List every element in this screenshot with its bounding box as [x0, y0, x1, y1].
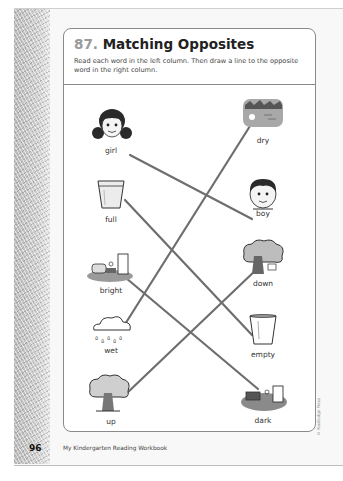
- svg-text:٥: ٥: [95, 334, 98, 341]
- line-girl-boy[interactable]: [130, 155, 252, 219]
- boy-face-icon[interactable]: [245, 176, 281, 212]
- word-bright: bright: [86, 286, 136, 295]
- svg-text:٥: ٥: [119, 334, 122, 341]
- word-boy: boy: [238, 209, 288, 218]
- word-girl: girl: [86, 146, 136, 155]
- word-empty: empty: [238, 350, 288, 359]
- line-wet-dry[interactable]: [122, 126, 250, 329]
- tree-down-icon[interactable]: [240, 238, 286, 278]
- footer-book-title: My Kindergarten Reading Workbook: [63, 445, 167, 451]
- bright-room-icon[interactable]: [86, 250, 134, 284]
- matching-lines: [0, 0, 343, 481]
- copyright-notice: © Routledge Press: [316, 398, 321, 436]
- svg-text:٥: ٥: [101, 337, 104, 344]
- word-full: full: [86, 215, 136, 224]
- empty-glass-icon[interactable]: [248, 313, 278, 347]
- full-glass-icon[interactable]: [96, 178, 126, 210]
- svg-text:٥: ٥: [113, 337, 116, 344]
- word-dark: dark: [238, 416, 288, 425]
- rain-cloud-icon[interactable]: ٥٥٥٥٥: [90, 312, 134, 346]
- line-bright-dark[interactable]: [126, 278, 258, 389]
- word-down: down: [238, 279, 288, 288]
- word-dry: dry: [238, 136, 288, 145]
- svg-text:٥: ٥: [107, 334, 110, 341]
- tree-up-icon[interactable]: [86, 373, 132, 415]
- dark-room-icon[interactable]: [240, 380, 288, 414]
- page-number: 96: [29, 443, 42, 453]
- dry-landscape-icon[interactable]: [242, 97, 284, 129]
- line-full-empty[interactable]: [125, 200, 252, 335]
- girl-face-icon[interactable]: [92, 107, 132, 143]
- word-up: up: [86, 417, 136, 426]
- word-wet: wet: [86, 346, 136, 355]
